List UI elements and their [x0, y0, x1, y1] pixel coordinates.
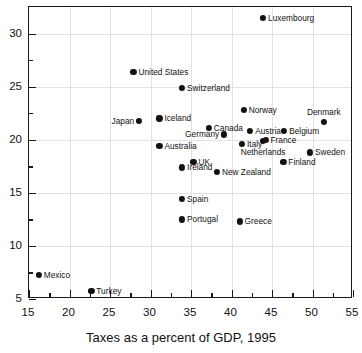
data-point-label: Japan	[112, 116, 135, 124]
x-tick-label: 50	[305, 306, 318, 318]
data-point[interactable]	[179, 216, 185, 222]
data-point[interactable]	[281, 128, 287, 134]
data-point-label: Switzerland	[187, 84, 230, 92]
x-tick-label: 55	[346, 306, 359, 318]
gridline-vertical	[151, 7, 152, 297]
data-point-label: Portugal	[187, 215, 218, 223]
y-tick-minor	[29, 166, 33, 167]
gridline-horizontal	[29, 34, 351, 35]
data-point[interactable]	[36, 271, 42, 277]
data-point-label: Finland	[288, 158, 315, 166]
x-tick-label: 25	[103, 306, 116, 318]
data-point[interactable]	[280, 159, 286, 165]
gridline-horizontal	[29, 246, 351, 247]
data-point[interactable]	[130, 69, 136, 75]
y-tick-label: 25	[0, 80, 22, 92]
x-tick-major	[313, 290, 314, 297]
data-point-label: Netherlands	[241, 147, 286, 155]
x-tick-minor	[49, 293, 50, 297]
x-tick-label: 35	[184, 306, 197, 318]
data-point[interactable]	[247, 128, 253, 134]
x-tick-minor	[171, 293, 172, 297]
x-tick-minor	[333, 293, 334, 297]
y-tick-minor	[29, 113, 33, 114]
data-point-label: United States	[138, 68, 188, 76]
x-tick-minor	[90, 293, 91, 297]
data-point-label: Germany	[185, 130, 219, 138]
data-point-label: New Zealand	[222, 167, 271, 175]
data-point[interactable]	[260, 15, 266, 21]
data-point[interactable]	[179, 196, 185, 202]
y-tick-major	[29, 140, 36, 141]
y-tick-major	[29, 87, 36, 88]
y-tick-label: 30	[0, 27, 22, 39]
x-tick-minor	[292, 293, 293, 297]
data-point[interactable]	[260, 138, 266, 144]
data-point[interactable]	[179, 85, 185, 91]
y-tick-major	[29, 299, 36, 300]
x-tick-label: 40	[224, 306, 237, 318]
gridline-vertical	[110, 7, 111, 297]
data-point-label: Sweden	[315, 148, 345, 156]
x-tick-minor	[252, 293, 253, 297]
x-tick-minor	[130, 293, 131, 297]
y-tick-minor	[29, 272, 33, 273]
x-tick-major	[272, 290, 273, 297]
data-point[interactable]	[156, 143, 162, 149]
data-point-label: Mexico	[44, 270, 70, 278]
data-point[interactable]	[237, 218, 243, 224]
data-point[interactable]	[136, 118, 142, 124]
data-point[interactable]	[321, 119, 327, 125]
x-tick-major	[353, 290, 354, 297]
data-point-label: France	[271, 136, 297, 144]
x-tick-major	[70, 290, 71, 297]
gridline-vertical	[191, 7, 192, 297]
data-point[interactable]	[221, 131, 227, 137]
data-point-label: Luxembourg	[268, 13, 314, 21]
scatter-chart-figure: LuxembourgUnited StatesSwitzerlandNorway…	[0, 0, 362, 353]
gridline-vertical	[70, 7, 71, 297]
data-point[interactable]	[179, 164, 185, 170]
x-tick-major	[191, 290, 192, 297]
x-tick-label: 30	[143, 306, 156, 318]
data-point-label: Spain	[187, 195, 208, 203]
x-tick-label: 15	[22, 306, 35, 318]
y-tick-label: 15	[0, 186, 22, 198]
x-tick-major	[151, 290, 152, 297]
y-tick-major	[29, 246, 36, 247]
data-point-label: Iceland	[164, 114, 191, 122]
data-point[interactable]	[156, 115, 162, 121]
x-tick-major	[232, 290, 233, 297]
y-tick-label: 20	[0, 133, 22, 145]
x-tick-major	[29, 290, 30, 297]
gridline-vertical	[232, 7, 233, 297]
x-tick-label: 20	[62, 306, 75, 318]
data-point-label: Denmark	[307, 107, 341, 115]
plot-area: LuxembourgUnited StatesSwitzerlandNorway…	[28, 6, 352, 298]
x-tick-minor	[211, 293, 212, 297]
y-tick-label: 10	[0, 239, 22, 251]
y-tick-minor	[29, 219, 33, 220]
data-point[interactable]	[214, 168, 220, 174]
data-point-label: Greece	[245, 217, 272, 225]
data-point-label: Turkey	[96, 286, 121, 294]
x-tick-label: 45	[265, 306, 278, 318]
y-tick-minor	[29, 60, 33, 61]
data-point-label: Ireland	[187, 163, 212, 171]
x-axis-title: Taxes as a percent of GDP, 1995	[0, 330, 362, 345]
data-point-label: Norway	[249, 106, 277, 114]
data-point[interactable]	[88, 287, 94, 293]
data-point-label: Australia	[164, 142, 196, 150]
y-tick-label: 5	[0, 292, 22, 304]
data-point[interactable]	[241, 107, 247, 113]
y-tick-major	[29, 34, 36, 35]
y-tick-major	[29, 193, 36, 194]
